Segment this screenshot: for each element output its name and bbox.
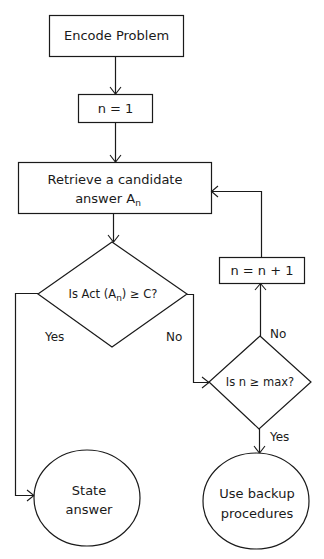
- node-retrieve: Retrieve a candidate answer An: [19, 163, 212, 214]
- node-decision-max-label: Is n ≥ max?: [226, 375, 294, 389]
- node-decision-max: Is n ≥ max?: [209, 336, 311, 429]
- edge-label-no-1: No: [166, 330, 182, 344]
- node-decision-activation-label: Is Act (An) ≥ C?: [69, 287, 158, 303]
- edge-decision2-yes: [254, 429, 265, 453]
- edge-label-yes-1: Yes: [44, 330, 64, 344]
- node-retrieve-line1: Retrieve a candidate: [48, 172, 183, 187]
- node-backup-line1: Use backup: [219, 486, 294, 501]
- node-encode-problem-label: Encode Problem: [64, 28, 169, 43]
- edge-retrieve-to-decision1: [108, 214, 119, 243]
- node-retrieve-line2: answer An: [75, 191, 141, 208]
- edge-encode-to-init: [110, 57, 121, 95]
- node-state-answer-line2: answer: [66, 502, 114, 517]
- node-increment: n = n + 1: [220, 258, 305, 284]
- flowchart: Encode Problem n = 1 Retrieve a candidat…: [0, 0, 324, 559]
- edge-label-yes-2: Yes: [269, 430, 289, 444]
- edge-label-no-2: No: [270, 327, 286, 341]
- node-backup-line2: procedures: [221, 506, 294, 521]
- edge-decision2-no: [255, 284, 266, 337]
- node-backup-procedures: Use backup procedures: [203, 453, 309, 549]
- edge-decision1-yes: [16, 294, 39, 502]
- node-increment-label: n = n + 1: [230, 263, 293, 278]
- node-state-answer-line1: State: [72, 483, 106, 498]
- edge-decision1-no: [187, 295, 209, 389]
- node-encode-problem: Encode Problem: [50, 16, 184, 57]
- edge-init-to-retrieve: [110, 123, 121, 163]
- node-state-answer: State answer: [34, 450, 140, 546]
- node-init: n = 1: [79, 95, 153, 123]
- node-init-label: n = 1: [98, 101, 134, 116]
- edge-increment-to-retrieve: [212, 186, 262, 258]
